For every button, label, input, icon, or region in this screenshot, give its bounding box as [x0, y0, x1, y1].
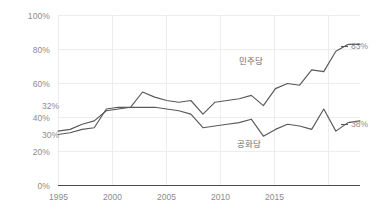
series-label-republican: 공화당	[237, 137, 261, 149]
value-label-republican-end: 38%	[351, 119, 368, 129]
y-tick-label-0: 0%	[8, 181, 50, 191]
line-chart: 100% 80% 60% 40% 20% 0% 1995 2000 2005 2…	[0, 0, 377, 213]
value-label-democrat-start: 32%	[42, 101, 59, 111]
series-line-republican	[58, 107, 360, 136]
y-tick-label-60: 60%	[8, 79, 50, 89]
x-tick-label-2010: 2010	[200, 192, 241, 202]
x-tick-label-2005: 2005	[146, 192, 187, 202]
series-line-democrat	[58, 44, 360, 131]
x-tick-label-1995: 1995	[38, 192, 79, 202]
y-tick-label-20: 20%	[8, 147, 50, 157]
horizontal-gridlines	[58, 16, 360, 152]
value-label-republican-start: 30%	[42, 130, 59, 140]
y-tick-label-40: 40%	[8, 113, 50, 123]
vertical-gridlines	[59, 15, 329, 185]
value-label-democrat-end: 83%	[351, 41, 368, 51]
y-tick-label-80: 80%	[8, 45, 50, 55]
series-label-democrat: 민주당	[239, 54, 263, 66]
x-tick-label-2015: 2015	[254, 192, 295, 202]
y-tick-label-100: 100%	[8, 11, 50, 21]
x-tick-label-2000: 2000	[92, 192, 133, 202]
